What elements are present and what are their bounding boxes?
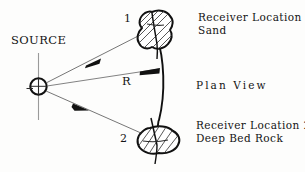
receiver-2-blob — [130, 118, 184, 164]
ray-2-arrowhead — [72, 104, 90, 111]
receiver-1-material-label: Sand — [198, 25, 227, 36]
source-symbol — [27, 53, 47, 120]
seismic-plan-view-figure: SOURCE R 1 2 Receiver Location 1 Sand Pl… — [0, 0, 305, 172]
ray-to-receiver-2 — [46, 91, 150, 137]
ray-number-1-label: 1 — [124, 13, 131, 25]
ray-radius-R — [47, 68, 160, 86]
radius-label: R — [122, 75, 131, 87]
radius-arrowhead — [140, 68, 160, 75]
ray-1-arrowhead — [85, 59, 101, 69]
source-label: SOURCE — [11, 34, 66, 46]
receiver-1-title-label: Receiver Location 1 — [198, 12, 305, 23]
receiver-2-title-label: Receiver Location 2 — [196, 120, 305, 131]
receiver-1-blob — [133, 8, 179, 59]
plan-view-label: Plan View — [196, 80, 268, 91]
receiver-2-material-label: Deep Bed Rock — [196, 133, 283, 144]
ray-number-2-label: 2 — [120, 133, 127, 145]
